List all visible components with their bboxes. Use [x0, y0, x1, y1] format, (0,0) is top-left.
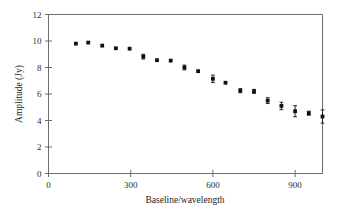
- marker-square: [266, 99, 270, 103]
- series-0: [74, 41, 324, 123]
- axis-tick-labels: 0246810120300600900: [33, 10, 303, 190]
- marker-square: [169, 59, 173, 63]
- data-points: [74, 41, 324, 123]
- y-tick-label: 0: [37, 169, 42, 179]
- data-point: [280, 102, 284, 109]
- data-point: [86, 41, 90, 45]
- data-point: [252, 89, 256, 93]
- marker-square: [211, 77, 215, 81]
- y-tick-label: 10: [33, 36, 43, 46]
- amplitude-vs-baseline-plot: 0246810120300600900 Baseline/wavelength …: [0, 0, 342, 216]
- y-tick-label: 4: [37, 116, 42, 126]
- data-point: [307, 111, 311, 115]
- data-point: [224, 81, 228, 85]
- axis-ticks: [45, 15, 295, 178]
- data-point: [100, 44, 104, 48]
- data-point: [169, 59, 173, 63]
- marker-square: [224, 81, 228, 85]
- x-axis-label: Baseline/wavelength: [145, 195, 224, 205]
- data-point: [238, 89, 242, 93]
- y-tick-label: 2: [37, 142, 42, 152]
- data-point: [293, 106, 297, 117]
- marker-square: [307, 111, 311, 115]
- data-point: [196, 69, 200, 73]
- x-tick-label: 0: [46, 180, 51, 190]
- marker-square: [293, 109, 297, 113]
- x-tick-label: 300: [124, 180, 138, 190]
- marker-square: [74, 42, 78, 46]
- y-tick-label: 8: [37, 63, 42, 73]
- chart-figure: 0246810120300600900 Baseline/wavelength …: [0, 0, 342, 216]
- marker-square: [238, 89, 242, 93]
- y-tick-label: 6: [37, 89, 42, 99]
- x-tick-label: 600: [206, 180, 220, 190]
- marker-square: [155, 58, 159, 62]
- marker-square: [100, 44, 104, 48]
- data-point: [141, 54, 145, 59]
- marker-square: [114, 46, 118, 50]
- data-point: [211, 75, 215, 82]
- data-point: [155, 58, 159, 62]
- data-point: [183, 65, 187, 70]
- data-point: [266, 98, 270, 104]
- marker-square: [196, 69, 200, 73]
- data-point: [74, 42, 78, 46]
- y-tick-label: 12: [33, 10, 42, 20]
- marker-square: [141, 55, 145, 59]
- marker-square: [128, 47, 132, 51]
- y-axis-label: Amplitude (Jy): [14, 65, 25, 123]
- data-point: [128, 47, 132, 51]
- axes-frame: [49, 15, 323, 174]
- marker-square: [252, 89, 256, 93]
- marker-square: [183, 66, 187, 70]
- data-point: [321, 110, 325, 123]
- data-point: [114, 46, 118, 50]
- marker-square: [86, 41, 90, 45]
- x-tick-label: 900: [288, 180, 302, 190]
- marker-square: [280, 104, 284, 108]
- plot-frame: [49, 15, 323, 174]
- marker-square: [321, 115, 325, 119]
